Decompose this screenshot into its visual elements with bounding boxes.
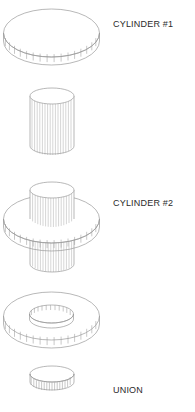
figure-row-subtraction: SUBTRACTION	[0, 288, 195, 356]
subtraction-shape	[0, 288, 110, 356]
union-shape	[0, 176, 110, 284]
label-cylinder-1: CYLINDER #1	[113, 20, 173, 29]
figure-row-union: UNION	[0, 176, 195, 284]
csg-operations-diagram: CYLINDER #1	[0, 0, 195, 412]
cylinder-1-shape	[0, 0, 110, 72]
cylinder-2-shape	[0, 80, 110, 170]
figure-row-cylinder-1: CYLINDER #1	[0, 0, 195, 72]
intersection-shape	[0, 358, 110, 412]
figure-row-intersection: INTERSECTION	[0, 358, 195, 412]
figure-row-cylinder-2: CYLINDER #2	[0, 80, 195, 170]
